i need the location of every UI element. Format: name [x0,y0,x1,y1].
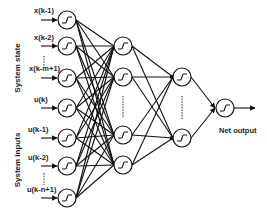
input-label-1: x(k-2) [34,33,55,42]
hidden1-neuron [114,37,132,55]
net-output-label: Net output [219,126,257,135]
group-label-system-state: System state [13,43,22,93]
neurons [44,11,234,207]
input-label-4: u(k-1) [28,125,49,134]
connection [76,135,114,198]
hidden1-neuron [114,156,132,174]
group-label-system-inputs: System inputs [13,132,22,187]
hidden2-neuron [173,68,191,86]
connection [132,135,173,138]
connection [191,108,215,138]
neural-network-diagram: x(k-1) x(k-2) x(k-m+1) u(k) u(k-1) u(k-2… [0,0,267,220]
input-neuron [58,189,76,207]
input-label-6: u(k-n+1) [27,185,57,194]
input-neuron [58,157,76,175]
connection [132,46,173,77]
input-neuron [58,99,76,117]
input-label-5: u(k-2) [28,153,49,162]
input-neuron [58,11,76,29]
hidden2-neuron [173,129,191,147]
connection [191,77,215,108]
hidden1-neuron [114,126,132,144]
hidden1-neuron [114,68,132,86]
input-label-0: x(k-1) [34,6,55,15]
output-neuron [216,99,234,117]
input-neuron [58,129,76,147]
input-neuron [58,37,76,55]
input-neuron [58,69,76,87]
input-label-3: u(k) [34,95,48,104]
connection [132,46,173,138]
input-label-2: x(k-m+1) [29,64,61,73]
